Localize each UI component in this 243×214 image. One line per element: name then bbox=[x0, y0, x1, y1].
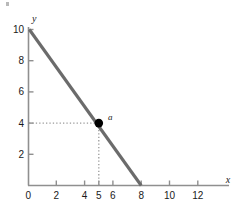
guide-lines-group bbox=[29, 123, 99, 185]
x-label-0: 0 bbox=[26, 190, 32, 201]
budget-line bbox=[29, 30, 141, 186]
line-chart-plot: a 10 8 6 4 2 0 2 4 5 6 8 10 12 y x bbox=[0, 0, 243, 214]
x-label-2: 2 bbox=[54, 190, 60, 201]
x-label-5: 5 bbox=[96, 190, 102, 201]
x-label-4: 4 bbox=[82, 190, 88, 201]
x-tick-labels: 0 2 4 5 6 8 10 12 bbox=[26, 190, 204, 201]
y-label-10: 10 bbox=[13, 24, 25, 35]
y-label-6: 6 bbox=[18, 86, 24, 97]
point-a-marker bbox=[95, 119, 104, 128]
data-line-group bbox=[29, 30, 141, 186]
x-label-8: 8 bbox=[138, 190, 144, 201]
x-label-6: 6 bbox=[110, 190, 116, 201]
x-label-12: 12 bbox=[192, 190, 204, 201]
axes-group bbox=[28, 27, 229, 186]
y-label-2: 2 bbox=[18, 149, 24, 160]
chart-figure: a 10 8 6 4 2 0 2 4 5 6 8 10 12 y x bbox=[0, 0, 243, 214]
point-a-label: a bbox=[108, 112, 113, 122]
y-label-4: 4 bbox=[18, 118, 24, 129]
point-a-group: a bbox=[95, 112, 114, 127]
y-tick-labels: 10 8 6 4 2 bbox=[13, 24, 25, 160]
y-axis-label: y bbox=[31, 13, 37, 24]
x-label-10: 10 bbox=[164, 190, 176, 201]
x-axis-label: x bbox=[225, 174, 231, 185]
y-label-8: 8 bbox=[18, 55, 24, 66]
